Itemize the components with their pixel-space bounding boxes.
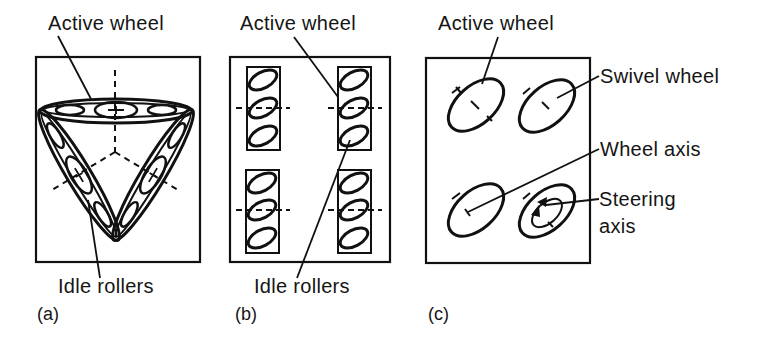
panel-a-diagram bbox=[30, 36, 203, 278]
panel-a-active-wheel-label: Active wheel bbox=[48, 13, 164, 33]
panel-b-wheel-top-right bbox=[328, 66, 382, 150]
panel-b-diagram bbox=[230, 37, 390, 278]
steering-arrow-icon bbox=[531, 205, 540, 217]
panel-c-swivel-wheel-label: Swivel wheel bbox=[600, 66, 719, 86]
panel-c-diagram bbox=[426, 37, 599, 263]
panel-b-wheel-bottom-left bbox=[236, 169, 290, 253]
panel-c-tag: (c) bbox=[428, 305, 449, 323]
panel-a-idle-rollers-label: Idle rollers bbox=[58, 276, 154, 296]
panel-c-wheel-axis-label: Wheel axis bbox=[600, 139, 701, 159]
panel-b-wheel-bottom-right bbox=[328, 169, 382, 253]
panel-c-active-wheel bbox=[439, 69, 513, 141]
panel-b-wheel-top-left bbox=[236, 66, 290, 150]
panel-a-wheel-right bbox=[104, 104, 203, 247]
panel-c-active-wheel-label: Active wheel bbox=[438, 13, 554, 33]
panel-c-swivel-wheel bbox=[510, 70, 584, 142]
panel-a-active-wheel-leader bbox=[58, 36, 91, 99]
panel-b-tag: (b) bbox=[235, 305, 257, 323]
panel-c-steering-axis-label-line2: axis bbox=[599, 216, 636, 236]
steering-arrow-icon bbox=[537, 197, 547, 207]
panel-c-steering-axis-label-line1: Steering bbox=[599, 189, 676, 209]
panel-b-active-wheel-label: Active wheel bbox=[240, 13, 356, 33]
panel-b-active-wheel-leader bbox=[294, 37, 338, 97]
panel-a-axes bbox=[52, 70, 178, 190]
panel-b-idle-rollers-label: Idle rollers bbox=[254, 276, 350, 296]
panel-c-active-wheel-leader bbox=[482, 37, 498, 84]
panel-c-wheel-axis-leader bbox=[468, 149, 599, 212]
panel-a-tag: (a) bbox=[37, 305, 59, 323]
panel-c-wheel-axis-wheel bbox=[439, 174, 513, 246]
